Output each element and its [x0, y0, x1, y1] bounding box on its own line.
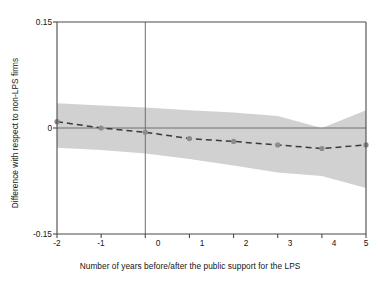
x-tick-label--1: -1 — [87, 238, 115, 248]
x-tick-label-4: 4 — [320, 238, 348, 248]
x-tick-label-1: 1 — [188, 238, 216, 248]
data-point-marker — [143, 130, 148, 135]
x-tick-label-2: 2 — [232, 238, 260, 248]
x-tick-label-5: 5 — [352, 238, 380, 248]
data-point-marker — [275, 142, 280, 147]
x-axis-title: Number of years before/after the public … — [0, 261, 380, 271]
x-tick-label-3: 3 — [276, 238, 304, 248]
x-tick-label--2: -2 — [43, 238, 71, 248]
y-axis-tick-marks — [53, 22, 57, 234]
data-point-marker — [187, 136, 192, 141]
data-point-marker — [99, 125, 104, 130]
x-tick-label-0: 0 — [144, 238, 172, 248]
data-point-marker — [231, 139, 236, 144]
y-axis-title: Difference with respect to non-LPS firms — [10, 23, 20, 243]
chart-figure: 0.15 0 -0.15 -2 -1 0 1 2 3 4 5 Number of… — [0, 0, 380, 283]
data-point-marker — [319, 146, 324, 151]
